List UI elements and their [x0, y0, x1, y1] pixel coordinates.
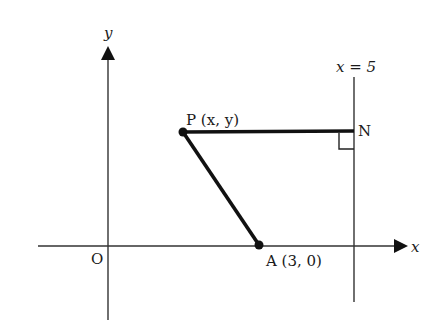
line-x-equals-5-label: x = 5 — [336, 58, 376, 76]
point-N-label: N — [358, 122, 371, 140]
segment-PN — [183, 131, 354, 132]
x-axis-label: x — [411, 238, 420, 256]
origin-label: O — [91, 250, 103, 268]
segment-PA — [183, 132, 259, 245]
right-angle-marker — [339, 133, 354, 149]
line-label-text: x = 5 — [336, 58, 376, 76]
point-P-label: P (x, y) — [186, 111, 239, 129]
point-A — [255, 241, 264, 250]
point-A-label: A (3, 0) — [265, 252, 322, 270]
y-axis — [101, 46, 115, 320]
x-axis-arrow-icon — [394, 239, 408, 253]
coordinate-diagram: y x O x = 5 P (x, y) N A (3, 0) — [0, 0, 445, 322]
y-axis-arrow-icon — [101, 46, 115, 60]
y-axis-label: y — [103, 24, 113, 42]
